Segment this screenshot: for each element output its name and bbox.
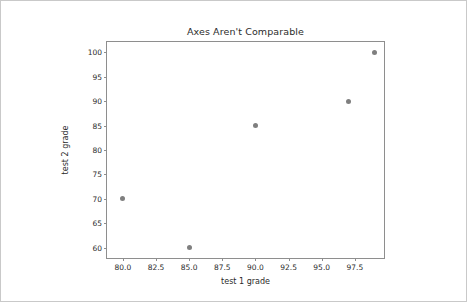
y-axis-tick-label: 100: [88, 48, 102, 57]
x-axis-tick-label: 85.0: [181, 263, 198, 272]
y-axis-tick-label: 85: [92, 121, 102, 130]
y-axis-tick-label: 80: [92, 146, 102, 155]
y-axis-tick: [104, 174, 107, 175]
screenshot-frame: Axes Aren't Comparable 80.082.585.087.59…: [0, 0, 467, 302]
x-axis-tick: [189, 258, 190, 261]
x-axis-tick: [156, 258, 157, 261]
chart-title: Axes Aren't Comparable: [106, 26, 385, 37]
y-axis-tick: [104, 248, 107, 249]
y-axis-tick-label: 75: [92, 170, 102, 179]
x-axis-tick: [355, 258, 356, 261]
x-axis-tick: [255, 258, 256, 261]
data-layer: [107, 42, 384, 258]
y-axis-tick: [104, 199, 107, 200]
x-axis-tick: [322, 258, 323, 261]
x-axis-tick: [123, 258, 124, 261]
x-axis-tick-label: 97.5: [346, 263, 363, 272]
x-axis-label: test 1 grade: [106, 277, 385, 286]
scatter-point: [253, 123, 258, 128]
y-axis-tick-label: 90: [92, 97, 102, 106]
y-axis-tick-label: 60: [92, 243, 102, 252]
y-axis-tick: [104, 77, 107, 78]
y-axis-tick-label: 70: [92, 194, 102, 203]
x-axis-tick-label: 82.5: [148, 263, 165, 272]
y-axis-tick: [104, 126, 107, 127]
x-axis-tick-label: 80.0: [115, 263, 132, 272]
scatter-point: [372, 50, 377, 55]
plot-area: 80.082.585.087.590.092.595.097.560657075…: [106, 41, 385, 259]
x-axis-tick-label: 90.0: [247, 263, 264, 272]
x-axis-tick: [222, 258, 223, 261]
scatter-point: [187, 245, 192, 250]
y-axis-tick: [104, 52, 107, 53]
x-axis-tick: [289, 258, 290, 261]
y-axis-tick: [104, 150, 107, 151]
x-axis-tick-label: 92.5: [280, 263, 297, 272]
y-axis-tick: [104, 223, 107, 224]
y-axis-label: test 2 grade: [61, 126, 70, 175]
scatter-point: [346, 99, 351, 104]
x-axis-tick-label: 95.0: [313, 263, 330, 272]
y-axis-tick: [104, 101, 107, 102]
scatter-point: [120, 196, 125, 201]
y-axis-tick-label: 95: [92, 72, 102, 81]
matplotlib-figure: Axes Aren't Comparable 80.082.585.087.59…: [1, 1, 466, 301]
y-axis-tick-label: 65: [92, 219, 102, 228]
x-axis-tick-label: 87.5: [214, 263, 231, 272]
